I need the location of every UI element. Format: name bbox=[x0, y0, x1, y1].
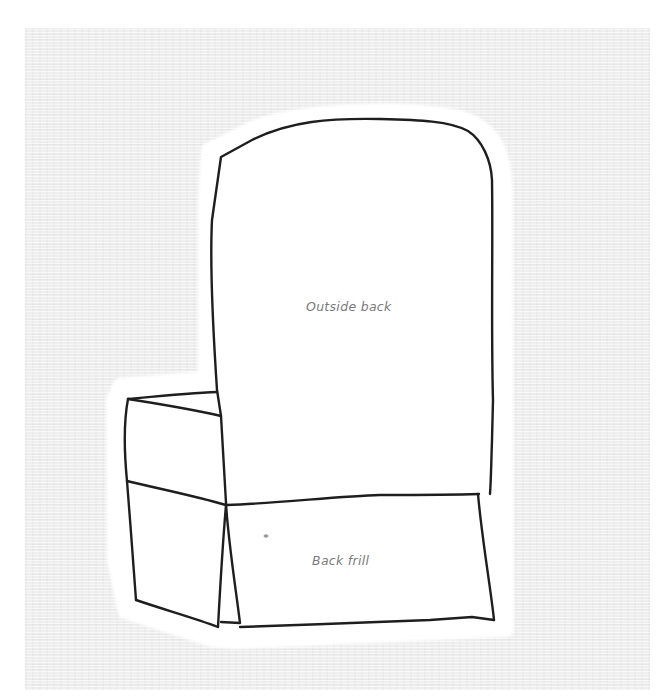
label-back-frill: Back frill bbox=[312, 553, 369, 568]
white-cutout bbox=[113, 111, 507, 642]
chair-illustration bbox=[0, 0, 664, 697]
label-outside-back: Outside back bbox=[306, 299, 392, 314]
speck bbox=[264, 534, 269, 538]
